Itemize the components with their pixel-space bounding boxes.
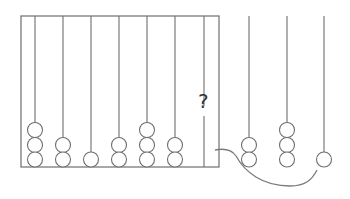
bead — [280, 138, 295, 153]
bead — [84, 152, 99, 167]
bead — [280, 123, 295, 138]
abacus-diagram: ? — [0, 0, 350, 199]
bead — [140, 152, 155, 167]
question-mark: ? — [198, 89, 209, 113]
bead — [28, 123, 43, 138]
bead — [28, 138, 43, 153]
bead — [28, 152, 43, 167]
bead — [140, 123, 155, 138]
bead — [168, 152, 183, 167]
bead — [280, 152, 295, 167]
bead — [242, 138, 257, 153]
bead — [112, 152, 127, 167]
bead — [317, 152, 332, 167]
bead — [168, 138, 183, 153]
bead — [242, 152, 257, 167]
bead — [112, 138, 127, 153]
connector-curve — [215, 149, 317, 186]
left-beads — [28, 123, 183, 168]
bead — [140, 138, 155, 153]
option-beads — [242, 123, 332, 168]
bead — [56, 152, 71, 167]
bead — [56, 138, 71, 153]
